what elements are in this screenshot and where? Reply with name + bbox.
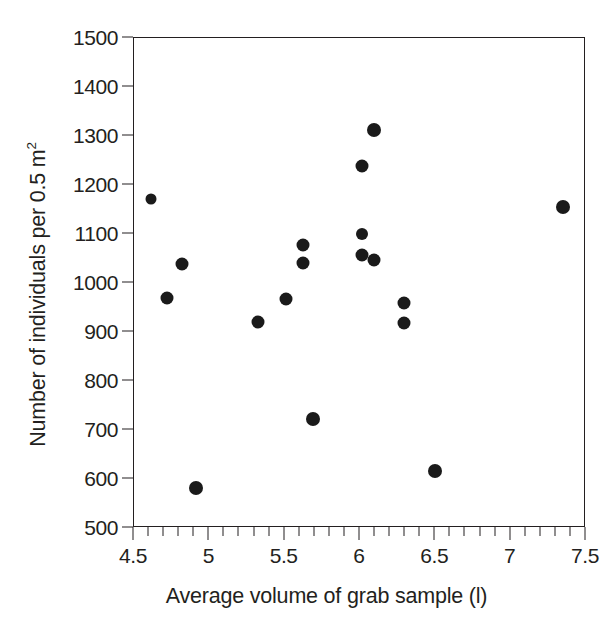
x-axis-tick-minor — [193, 527, 194, 536]
data-point — [296, 239, 309, 252]
data-point — [161, 291, 174, 304]
y-axis-tick-label: 1000 — [73, 272, 118, 293]
y-axis-tick-label: 1500 — [73, 27, 118, 48]
x-axis-tick-major — [585, 527, 586, 540]
x-axis-tick-major — [133, 527, 134, 540]
y-axis-tick — [122, 478, 133, 479]
plot-area — [133, 37, 585, 527]
x-axis-tick-minor — [343, 527, 344, 536]
x-axis-tick-minor — [178, 527, 179, 536]
x-axis-tick-minor — [569, 527, 570, 536]
y-axis-tick — [122, 331, 133, 332]
data-point — [367, 123, 381, 137]
y-axis-tick-label: 700 — [84, 419, 118, 440]
y-axis-tick — [122, 429, 133, 430]
x-axis-tick-minor — [148, 527, 149, 536]
x-axis-tick-label: 4.5 — [119, 545, 147, 566]
x-axis-tick-label: 7 — [504, 545, 515, 566]
x-axis: Average volume of grab sample (l) 4.555.… — [0, 527, 615, 628]
data-point — [428, 464, 442, 478]
data-point — [556, 200, 570, 214]
x-axis-tick-minor — [328, 527, 329, 536]
y-axis-tick-label: 1400 — [73, 76, 118, 97]
x-axis-tick-minor — [253, 527, 254, 536]
y-axis-title-superscript: 2 — [24, 142, 39, 149]
y-axis-tick — [122, 233, 133, 234]
data-point — [296, 256, 309, 269]
y-axis-tick — [122, 135, 133, 136]
y-axis-tick-label: 1200 — [73, 174, 118, 195]
y-axis-title-text: Number of individuals per 0.5 m — [26, 150, 50, 447]
data-points-layer — [134, 38, 584, 526]
x-axis-tick-label: 6.5 — [420, 545, 448, 566]
x-axis-tick-minor — [223, 527, 224, 536]
data-point — [176, 257, 189, 270]
x-axis-tick-label: 5.5 — [270, 545, 298, 566]
x-axis-tick-minor — [539, 527, 540, 536]
x-axis-tick-label: 6 — [353, 545, 364, 566]
data-point — [397, 317, 410, 330]
x-axis-tick-minor — [313, 527, 314, 536]
y-axis-tick-label: 1300 — [73, 125, 118, 146]
data-point — [280, 293, 293, 306]
x-axis-tick-label: 7.5 — [571, 545, 599, 566]
x-axis-tick-minor — [464, 527, 465, 536]
x-axis-tick-minor — [449, 527, 450, 536]
y-axis-tick-label: 1100 — [74, 223, 118, 244]
x-axis-tick-minor — [389, 527, 390, 536]
x-axis-tick-minor — [419, 527, 420, 536]
x-axis-tick-major — [208, 527, 209, 540]
x-axis-tick-major — [283, 527, 284, 540]
x-axis-tick-minor — [163, 527, 164, 536]
x-axis-tick-minor — [374, 527, 375, 536]
y-axis-tick — [122, 37, 133, 38]
y-axis-tick — [122, 184, 133, 185]
x-axis-tick-major — [434, 527, 435, 540]
x-axis-tick-minor — [238, 527, 239, 536]
y-axis-tick-label: 600 — [84, 468, 118, 489]
data-point — [355, 159, 368, 172]
data-point — [189, 481, 203, 495]
x-axis-tick-major — [359, 527, 360, 540]
y-axis-tick-label: 900 — [84, 321, 118, 342]
x-axis-tick-minor — [268, 527, 269, 536]
x-axis-tick-minor — [524, 527, 525, 536]
data-point — [251, 315, 264, 328]
data-point — [367, 254, 380, 267]
y-axis-tick — [122, 380, 133, 381]
data-point — [306, 412, 320, 426]
y-axis-tick-label: 800 — [84, 370, 118, 391]
x-axis-tick-major — [509, 527, 510, 540]
data-point — [356, 228, 368, 240]
y-axis-title: Number of individuals per 0.5 m2 — [26, 60, 51, 530]
x-axis-tick-minor — [298, 527, 299, 536]
data-point — [355, 249, 368, 262]
x-axis-tick-label: 5 — [203, 545, 214, 566]
x-axis-tick-minor — [479, 527, 480, 536]
x-axis-title: Average volume of grab sample (l) — [0, 584, 615, 609]
y-axis-tick — [122, 86, 133, 87]
data-point — [145, 193, 156, 204]
x-axis-tick-minor — [494, 527, 495, 536]
scatter-plot-figure: 500600700800900100011001200130014001500 … — [0, 0, 615, 628]
y-axis-tick — [122, 282, 133, 283]
x-axis-tick-minor — [554, 527, 555, 536]
x-axis-tick-minor — [404, 527, 405, 536]
data-point — [397, 296, 410, 309]
